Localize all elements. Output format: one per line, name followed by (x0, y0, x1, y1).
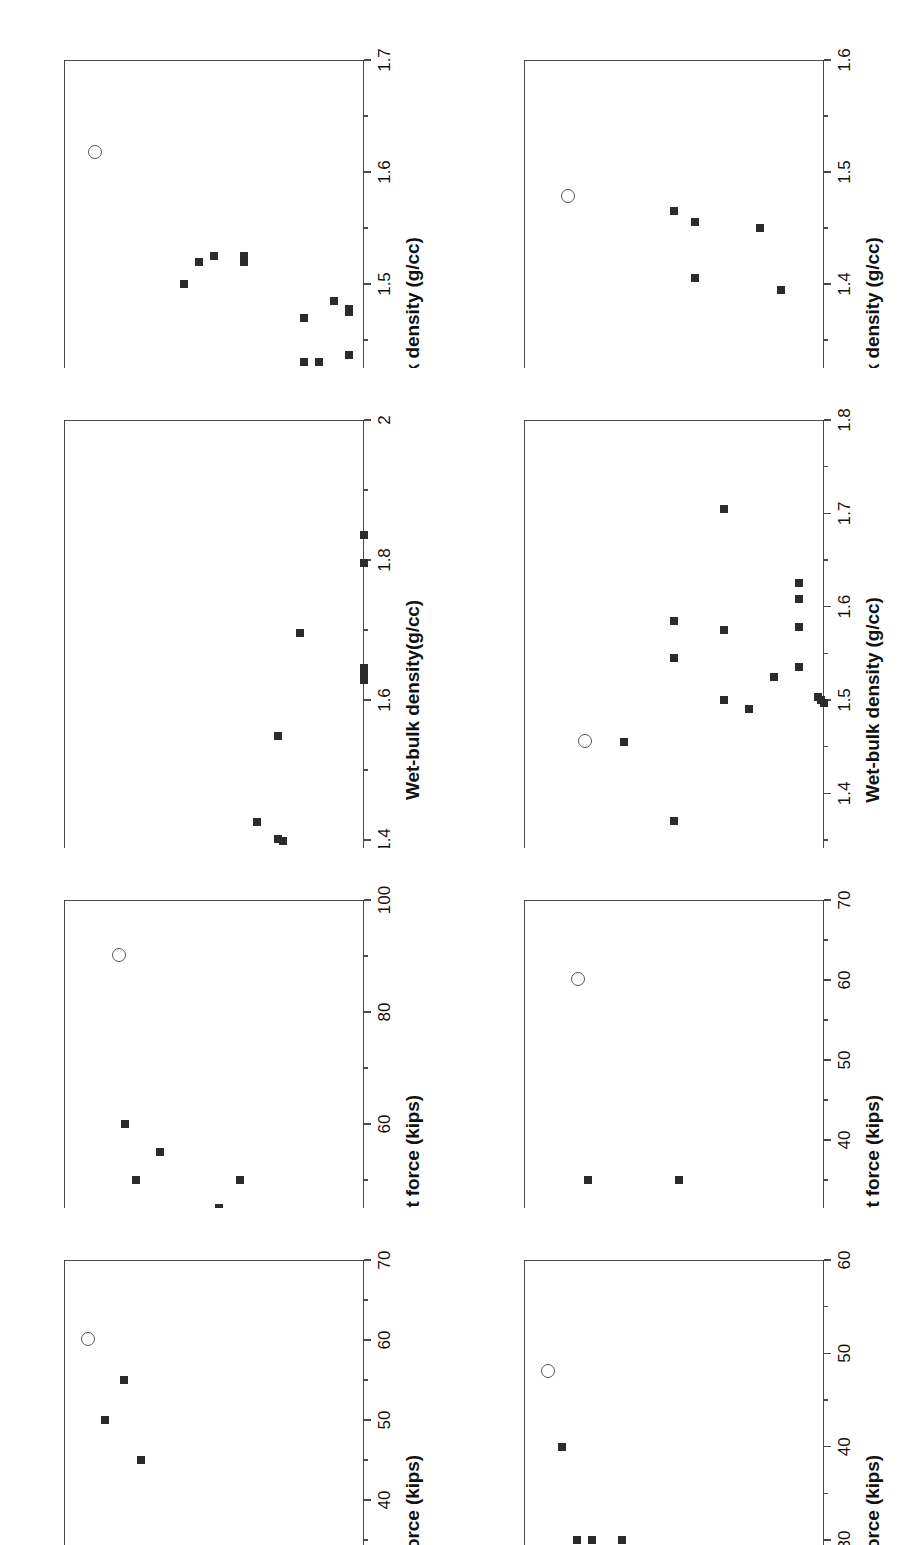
data-point (274, 732, 282, 740)
data-point (670, 654, 678, 662)
x-tick (824, 606, 831, 607)
x-tick-label: 40 (835, 1131, 855, 1150)
x-tick-label: 60 (835, 1251, 855, 1270)
data-point (345, 351, 353, 359)
data-point-maximum (112, 948, 126, 962)
data-point (620, 738, 628, 746)
x-tick-label: 70 (835, 891, 855, 910)
x-tick (824, 513, 831, 514)
data-point (236, 1176, 244, 1184)
x-tick (824, 979, 831, 980)
x-tick-label: 60 (375, 1115, 395, 1134)
x-tick-minor (364, 629, 368, 630)
x-tick (824, 1539, 831, 1540)
x-tick (364, 1123, 371, 1124)
data-point (720, 626, 728, 634)
x-tick-minor (824, 1306, 828, 1307)
data-point (296, 630, 304, 638)
data-point (745, 705, 753, 713)
x-tick (824, 171, 831, 172)
data-point (279, 837, 287, 845)
data-point (720, 696, 728, 704)
data-point (101, 1416, 109, 1424)
data-point (618, 1536, 626, 1544)
data-point (195, 258, 203, 266)
x-tick (824, 793, 831, 794)
data-point (360, 532, 368, 540)
data-point (121, 1120, 129, 1128)
panel-p643-depth: Hole 643A01020304050607004080120160Pullo… (12, 1208, 442, 1545)
x-tick-label: 100 (375, 886, 395, 914)
data-point (300, 314, 308, 322)
x-tick-label: 1.5 (835, 688, 855, 712)
x-tick-label: 50 (375, 1411, 395, 1430)
x-tick-minor (364, 1179, 368, 1180)
x-tick (364, 419, 371, 420)
x-tick-minor (824, 939, 828, 940)
x-tick-minor (364, 955, 368, 956)
x-tick (824, 1059, 831, 1060)
data-point-maximum (81, 1332, 95, 1346)
x-tick (824, 1446, 831, 1447)
x-tick-label: 1.7 (835, 502, 855, 526)
data-point (691, 274, 699, 282)
x-tick-minor (824, 1179, 828, 1180)
data-point (360, 676, 368, 684)
data-point (777, 286, 785, 294)
data-point (360, 560, 368, 568)
data-point (756, 224, 764, 232)
data-point (588, 1536, 596, 1544)
x-tick-minor (824, 466, 828, 467)
x-tick-minor (364, 1067, 368, 1068)
data-point (210, 252, 218, 260)
x-tick-label: 1.4 (835, 782, 855, 806)
x-axis-label: Pullout force (kips) (862, 1455, 884, 1545)
x-tick (364, 1499, 371, 1500)
data-point (670, 207, 678, 215)
x-tick-minor (824, 227, 828, 228)
x-tick-minor (824, 1099, 828, 1100)
x-tick (364, 1259, 371, 1260)
data-point (584, 1176, 592, 1184)
data-point (330, 297, 338, 305)
x-tick-label: 1.8 (375, 548, 395, 572)
x-tick (364, 171, 371, 172)
x-tick-label: 80 (375, 1003, 395, 1022)
data-point (770, 673, 778, 681)
x-tick (824, 899, 831, 900)
data-point-maximum (541, 1364, 555, 1378)
x-tick-minor (824, 1019, 828, 1020)
x-tick (824, 419, 831, 420)
panel-body: Hole 643A01020304050607004080120160Pullo… (12, 1208, 442, 1545)
x-tick (824, 1139, 831, 1140)
figure-root: Hole 699A1.21.31.41.51.61.7020406080100W… (0, 0, 919, 1545)
x-tick-label: 1.4 (835, 272, 855, 296)
data-point (315, 358, 323, 366)
x-tick (824, 1353, 831, 1354)
x-tick-label: 2 (375, 415, 395, 424)
x-tick-minor (364, 227, 368, 228)
x-tick-label: 1.6 (835, 48, 855, 72)
x-tick-label: 60 (835, 971, 855, 990)
x-tick-minor (364, 1299, 368, 1300)
data-point (132, 1176, 140, 1184)
panel-p799-depth: Hole 799A0102030405060050100150200Pullou… (472, 1208, 902, 1545)
x-tick (824, 1259, 831, 1260)
x-tick-label: 50 (835, 1344, 855, 1363)
x-tick-label: 1.5 (375, 272, 395, 296)
data-point (720, 505, 728, 513)
data-point (120, 1376, 128, 1384)
x-tick-minor (364, 115, 368, 116)
data-point (137, 1456, 145, 1464)
x-tick-minor (824, 559, 828, 560)
data-point (670, 617, 678, 625)
x-tick-minor (824, 839, 828, 840)
data-point (156, 1148, 164, 1156)
panel-body: Hole 799A0102030405060050100150200Pullou… (472, 1208, 902, 1545)
x-tick-label: 70 (375, 1251, 395, 1270)
x-tick (364, 899, 371, 900)
x-tick-minor (364, 1459, 368, 1460)
x-tick-label: 40 (375, 1491, 395, 1510)
data-point (670, 817, 678, 825)
x-tick-label: 40 (835, 1437, 855, 1456)
